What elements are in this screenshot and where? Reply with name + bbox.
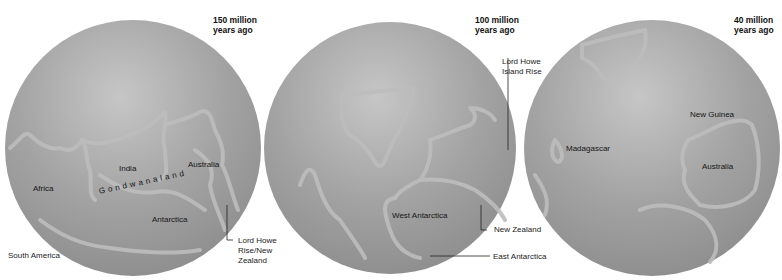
callout-line-3: Zealand <box>238 256 277 266</box>
callout-lord-howe-rise-new-zealand: Lord Howe Rise/New Zealand <box>238 236 277 266</box>
callout-east-antarctica: East Antarctica <box>493 252 546 262</box>
era-label-40mya: 40 million years ago <box>734 15 774 35</box>
callout-lord-howe-island-rise: Lord Howe Island Rise <box>502 57 542 77</box>
era-line-2: years ago <box>734 25 774 35</box>
era-label-150mya: 150 million years ago <box>213 15 257 35</box>
era-line-1: 100 million <box>475 15 519 25</box>
label-south-america: South America <box>8 251 60 261</box>
label-africa: Africa <box>33 184 53 194</box>
era-label-100mya: 100 million years ago <box>475 15 519 35</box>
callout-line-1: Lord Howe <box>238 236 277 246</box>
era-line-1: 40 million <box>734 15 774 25</box>
label-west-antarctica: West Antarctica <box>392 211 447 221</box>
globe-150mya <box>5 20 261 276</box>
era-line-1: 150 million <box>213 15 257 25</box>
label-india: India <box>119 164 136 174</box>
callout-new-zealand: New Zealand <box>494 225 541 235</box>
label-australia-40mya: Australia <box>702 162 733 172</box>
era-line-2: years ago <box>213 25 257 35</box>
globes-illustration <box>0 0 782 280</box>
label-australia: Australia <box>188 160 219 170</box>
label-madagascar: Madagascar <box>566 144 610 154</box>
callout-line-1: Lord Howe <box>502 57 542 67</box>
globe-40mya <box>524 20 780 276</box>
callout-line-2: Island Rise <box>502 67 542 77</box>
callout-line-2: Rise/New <box>238 246 277 256</box>
label-antarctica: Antarctica <box>152 215 188 225</box>
era-line-2: years ago <box>475 25 519 35</box>
globe-100mya <box>264 22 516 274</box>
label-new-guinea: New Guinea <box>690 110 734 120</box>
